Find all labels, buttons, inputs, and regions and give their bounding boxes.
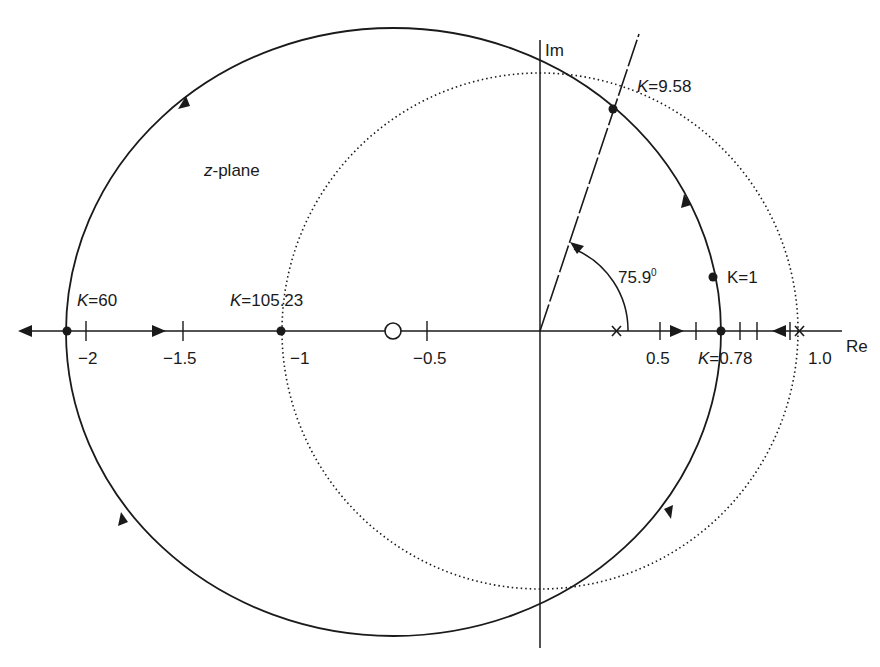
locus-arrow-icon [664, 505, 673, 519]
tick-label: 0.5 [646, 349, 670, 368]
point-k1 [709, 273, 718, 282]
imag-axis-label: Im [545, 41, 564, 60]
point-k958 [609, 105, 618, 114]
arrow-left-icon [772, 325, 786, 337]
point-k078 [717, 327, 726, 336]
k078-label: K=0.78 [698, 349, 752, 368]
point-k60 [63, 327, 72, 336]
k60-label: K=60 [77, 291, 117, 310]
point-k105 [277, 327, 286, 336]
tick-label: −2 [78, 349, 97, 368]
angle-arc [574, 249, 628, 331]
k958-label: K=9.58 [637, 77, 691, 96]
arrow-right-icon [670, 325, 684, 337]
k1-label: K=1 [727, 268, 758, 287]
plane-label: z-plane [203, 161, 260, 180]
angle-label: 75.90 [618, 267, 657, 287]
open-loop-zero [385, 323, 401, 339]
arrow-right-icon [152, 325, 166, 337]
tick-label: 1.0 [808, 349, 832, 368]
k105-label: K=105.23 [230, 291, 303, 310]
tick-label: −1 [290, 349, 309, 368]
real-axis-left-arrow-icon [18, 325, 32, 337]
locus-arrow-icon [118, 512, 128, 526]
tick-label: −0.5 [413, 349, 447, 368]
root-locus-figure: Im Re z-plane K=9.58 K=60 K=105.23 K=1 K… [0, 0, 880, 667]
real-axis-label: Re [846, 337, 868, 356]
tick-label: −1.5 [163, 349, 197, 368]
